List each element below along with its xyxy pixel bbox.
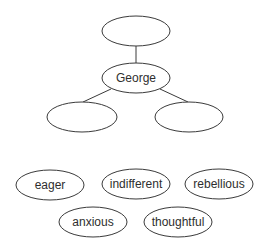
word-option-rebellious-label: rebellious	[193, 178, 244, 190]
word-option-thoughtful-label: thoughtful	[152, 216, 205, 228]
connector-center-to-left	[83, 89, 111, 102]
word-option-indifferent-label: indifferent	[110, 178, 162, 190]
word-option-eager-label: eager	[35, 179, 66, 191]
character-web-diagram: George eager indifferent rebellious anxi…	[0, 0, 266, 252]
george-node-label: George	[116, 72, 156, 84]
diagram-svg	[0, 0, 266, 252]
empty-node-top[interactable]	[102, 16, 170, 46]
empty-node-left[interactable]	[47, 102, 117, 132]
empty-node-right[interactable]	[155, 102, 223, 132]
word-option-anxious-label: anxious	[72, 216, 113, 228]
connector-center-to-right	[160, 89, 188, 102]
